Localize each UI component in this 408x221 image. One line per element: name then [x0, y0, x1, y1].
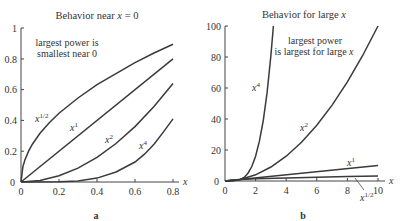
chart-a-xtick-label: 0: [19, 186, 24, 197]
chart-a-curve-x-2: [21, 83, 173, 182]
chart-a-xtick-label: 0.6: [129, 186, 142, 197]
chart-a-label-x-4: x4: [138, 139, 147, 151]
chart-a-x-axis-label: x: [182, 176, 188, 187]
chart-a-label-x-half: x1/2: [34, 112, 49, 124]
chart-a-ytick-label: 0.6: [5, 84, 18, 95]
chart-b-xtick-label: 6: [314, 185, 319, 196]
chart-b-xtick-label: 4: [284, 185, 289, 196]
chart-b-ytick-label: 80: [211, 52, 221, 63]
chart-a-ytick-label: 0.2: [5, 146, 18, 157]
chart-b-xtick-label: 0: [223, 185, 228, 196]
panel-label-a: a: [94, 210, 99, 221]
chart-b-xtick-label: 8: [345, 185, 350, 196]
figure: Behavior near x = 0 0 0.2 0.4 0.6 0.8 1 …: [0, 0, 408, 221]
chart-b-annotation-line2: is largest for large x: [274, 46, 354, 57]
chart-a-xtick-label: 0.4: [91, 186, 104, 197]
chart-a-ytick-label: 0.8: [5, 54, 18, 65]
chart-b-xtick-label: 2: [253, 185, 258, 196]
chart-a-annotation-line2: smallest near 0: [37, 48, 97, 59]
chart-b-curve-x-4: [225, 26, 273, 181]
chart-b: Behavior for large x 0 20 40 60 80 100 0: [206, 9, 394, 221]
chart-b-label-x-1: x1: [346, 156, 355, 168]
chart-a-annotation-line1: largest power is: [35, 37, 98, 48]
chart-b-label-x-2: x2: [299, 121, 308, 133]
chart-a-ytick-label: 0: [10, 177, 15, 188]
chart-a-xtick-label: 0.2: [53, 186, 66, 197]
chart-b-label-leader-line: [355, 178, 364, 190]
chart-b-ytick-label: 100: [206, 21, 221, 32]
panel-label-b: b: [300, 210, 306, 221]
chart-a-label-x-1: x1: [69, 121, 78, 133]
chart-a-title: Behavior near x = 0: [56, 10, 139, 21]
chart-a-label-x-2: x2: [104, 133, 113, 145]
chart-b-label-x-half: x1/2: [359, 191, 374, 203]
chart-b-ytick-label: 60: [211, 83, 221, 94]
chart-b-xtick-label: 10: [373, 185, 383, 196]
chart-b-ytick-label: 0: [214, 176, 219, 187]
chart-b-x-axis-label: x: [388, 175, 394, 186]
chart-a-ytick-label: 0.4: [5, 115, 18, 126]
chart-b-label-x-4: x4: [251, 81, 260, 93]
chart-a-curve-x-1: [21, 59, 173, 182]
chart-b-title: Behavior for large x: [262, 9, 346, 20]
chart-a-xtick-label: 0.8: [167, 186, 180, 197]
chart-b-annotation-line1: largest power: [288, 35, 343, 46]
chart-b-ytick-label: 40: [211, 114, 221, 125]
chart-a: Behavior near x = 0 0 0.2 0.4 0.6 0.8 1 …: [5, 10, 189, 221]
chart-b-ytick-label: 20: [211, 145, 221, 156]
chart-a-ytick-label: 1: [12, 23, 17, 34]
